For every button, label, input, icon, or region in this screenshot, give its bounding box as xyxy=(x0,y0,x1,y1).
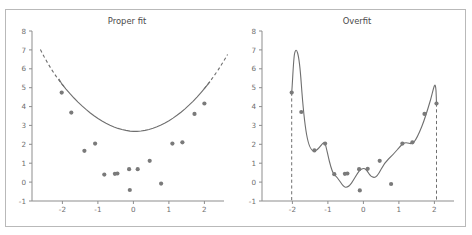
data-point xyxy=(159,182,163,186)
y-tick-3: 3 xyxy=(21,121,32,130)
y-tick-label: -1 xyxy=(19,197,26,206)
proper-fit-y-axis-ticks: 8 7 6 5 4 xyxy=(19,27,32,206)
x-tick-label: -2 xyxy=(59,205,66,214)
y-tick-0: 0 xyxy=(251,178,262,187)
y-tick-label: 6 xyxy=(21,64,26,73)
x-tick-0: 0 xyxy=(131,201,136,214)
data-point xyxy=(60,91,64,95)
overfit-y-axis-ticks: 8 7 6 5 4 xyxy=(249,27,262,206)
y-tick-3: 3 xyxy=(251,121,262,130)
data-point xyxy=(180,140,184,144)
data-point xyxy=(358,188,362,192)
x-tick-minus2: -2 xyxy=(289,201,296,214)
y-tick-0: 0 xyxy=(21,178,32,187)
data-point xyxy=(136,167,140,171)
y-tick-label: 5 xyxy=(251,83,256,92)
y-tick-label: 2 xyxy=(21,140,26,149)
x-tick-label: 0 xyxy=(131,205,136,214)
y-tick-label: 0 xyxy=(21,178,26,187)
y-tick-label: 6 xyxy=(251,64,256,73)
data-point xyxy=(170,142,174,146)
y-tick-label: 7 xyxy=(21,46,26,55)
data-point xyxy=(434,101,438,105)
x-tick-minus2: -2 xyxy=(59,201,66,214)
overfit-data-points xyxy=(290,91,439,193)
y-tick-1: 1 xyxy=(251,159,262,168)
y-tick-label: 4 xyxy=(251,102,256,111)
x-tick-label: 0 xyxy=(361,205,366,214)
proper-fit-title: Proper fit xyxy=(108,16,147,26)
y-tick-label: 4 xyxy=(21,102,26,111)
y-tick-label: 0 xyxy=(251,178,256,187)
y-tick-2: 2 xyxy=(251,140,262,149)
data-point xyxy=(357,167,361,171)
data-point xyxy=(378,159,382,163)
data-point xyxy=(127,167,131,171)
y-tick-7: 7 xyxy=(21,46,32,55)
proper-fit-svg: Proper fit 8 7 6 5 xyxy=(2,12,231,224)
x-tick-label: -1 xyxy=(324,205,331,214)
x-tick-minus1: -1 xyxy=(94,201,101,214)
x-tick-2: 2 xyxy=(432,201,437,214)
y-tick-label: 1 xyxy=(21,159,26,168)
y-tick-label: 2 xyxy=(251,140,256,149)
data-point xyxy=(115,171,119,175)
x-tick-0: 0 xyxy=(361,201,366,214)
y-tick-6: 6 xyxy=(21,64,32,73)
data-point xyxy=(400,142,404,146)
quadratic-fit-curve xyxy=(59,79,210,131)
overfit-x-axis-ticks: -2 -1 0 1 2 xyxy=(289,201,437,214)
data-point xyxy=(366,167,370,171)
y-tick-label: 1 xyxy=(251,159,256,168)
figure-root: Proper fit 8 7 6 5 xyxy=(0,0,472,235)
x-tick-label: -1 xyxy=(94,205,101,214)
x-tick-label: 1 xyxy=(167,205,172,214)
data-point xyxy=(192,112,196,116)
y-tick-4: 4 xyxy=(251,102,262,111)
proper-fit-x-axis-ticks: -2 -1 0 1 2 xyxy=(59,201,207,214)
y-tick-minus1: -1 xyxy=(19,197,32,206)
data-point xyxy=(102,173,106,177)
y-tick-2: 2 xyxy=(21,140,32,149)
y-tick-minus1: -1 xyxy=(249,197,262,206)
data-point xyxy=(82,149,86,153)
data-point xyxy=(422,112,426,116)
data-point xyxy=(389,182,393,186)
y-tick-6: 6 xyxy=(251,64,262,73)
overfit-svg: Overfit 8 7 6 5 xyxy=(232,12,461,224)
y-tick-8: 8 xyxy=(21,27,32,36)
x-tick-2: 2 xyxy=(202,201,207,214)
y-tick-label: 5 xyxy=(21,83,26,92)
data-point xyxy=(345,171,349,175)
extrapolation-right-dashed xyxy=(204,54,228,89)
overfit-curve xyxy=(292,50,437,187)
data-point xyxy=(93,142,97,146)
x-tick-label: 2 xyxy=(202,205,207,214)
y-tick-8: 8 xyxy=(251,27,262,36)
y-tick-label: 8 xyxy=(21,27,26,36)
y-tick-label: 8 xyxy=(251,27,256,36)
y-tick-7: 7 xyxy=(251,46,262,55)
data-point xyxy=(290,91,294,95)
x-tick-1: 1 xyxy=(397,201,402,214)
y-tick-4: 4 xyxy=(21,102,32,111)
x-tick-label: -2 xyxy=(289,205,296,214)
y-tick-label: -1 xyxy=(249,197,256,206)
chart-panel-overfit: Overfit 8 7 6 5 xyxy=(232,12,461,224)
y-tick-1: 1 xyxy=(21,159,32,168)
data-point xyxy=(202,101,206,105)
y-tick-5: 5 xyxy=(251,83,262,92)
x-tick-1: 1 xyxy=(167,201,172,214)
data-point xyxy=(323,142,327,146)
x-tick-label: 2 xyxy=(432,205,437,214)
data-point xyxy=(410,140,414,144)
data-point xyxy=(148,159,152,163)
data-point xyxy=(332,172,336,176)
y-tick-label: 3 xyxy=(21,121,26,130)
overfit-title: Overfit xyxy=(343,16,372,26)
data-point xyxy=(312,148,316,152)
chart-panel-proper-fit: Proper fit 8 7 6 5 xyxy=(2,12,231,224)
proper-fit-axes xyxy=(32,31,224,201)
y-tick-label: 3 xyxy=(251,121,256,130)
overfit-boundary-lines xyxy=(292,93,437,201)
